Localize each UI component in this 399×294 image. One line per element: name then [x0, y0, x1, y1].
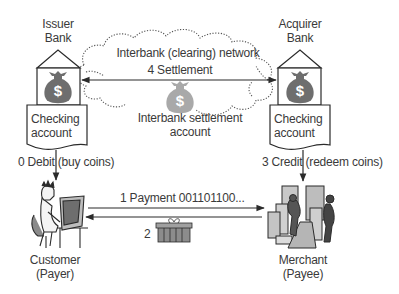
- interbank-network-label: Interbank (clearing) network: [116, 46, 259, 60]
- customer-at-computer-icon: [32, 181, 88, 248]
- acquirer-checking-account-label: Checking account: [274, 112, 322, 140]
- ecash-payment-diagram: $ $ $: [0, 0, 399, 294]
- merchant-label: Merchant (Payee): [279, 253, 327, 281]
- svg-text:$: $: [176, 92, 185, 109]
- settlement-step-label: 4 Settlement: [148, 63, 213, 77]
- credit-step-label: 3 Credit (redeem coins): [262, 155, 383, 169]
- acquirer-bank-label: Acquirer Bank: [278, 17, 321, 45]
- svg-text:$: $: [54, 82, 63, 99]
- goods-step-label: 2: [144, 227, 150, 241]
- settlement-money-bag-icon: $: [166, 81, 193, 113]
- customer-label: Customer (Payer): [30, 253, 80, 281]
- debit-step-label: 0 Debit (buy coins): [18, 155, 114, 169]
- settlement-account-label: Interbank settlement account: [138, 111, 243, 139]
- payment-step-label: 1 Payment 001101100...: [120, 191, 245, 205]
- svg-text:$: $: [296, 82, 305, 99]
- merchant-shop-icon: [268, 186, 334, 248]
- gift-box-icon: [156, 219, 192, 242]
- issuer-bank-label: Issuer Bank: [42, 17, 73, 45]
- issuer-checking-account-label: Checking account: [31, 112, 79, 140]
